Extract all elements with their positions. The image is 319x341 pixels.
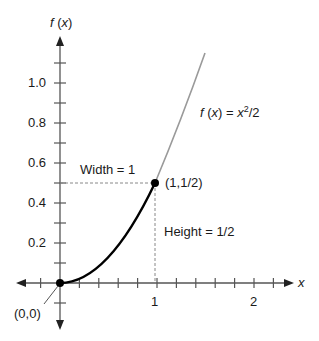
width-annotation: Width = 1 [80, 162, 135, 177]
guide-lines [60, 183, 155, 283]
origin-point [56, 279, 64, 287]
y-axis-down-arrow-icon [56, 320, 64, 330]
origin-label: (0,0) [14, 306, 41, 321]
point-label: (1,1/2) [165, 175, 203, 190]
x-axis-left-arrow-icon [16, 279, 26, 287]
x-tick-label-1: 1 [151, 294, 158, 309]
chart: f (x) x 1.0 0.8 0.6 0.4 0.2 1 2 (0,0) (1… [0, 0, 319, 341]
curve-continuation [155, 53, 205, 183]
x-tick-label-2: 2 [250, 294, 257, 309]
x-axis-right-arrow-icon [284, 279, 294, 287]
height-annotation: Height = 1/2 [164, 224, 234, 239]
y-tick-label-0.2: 0.2 [28, 235, 46, 250]
y-tick-label-1.0: 1.0 [28, 75, 46, 90]
point-1-half [151, 179, 159, 187]
y-axis-label: f (x) [50, 15, 72, 30]
x-axis-label: x [297, 275, 305, 290]
y-tick-label-0.4: 0.4 [28, 195, 46, 210]
y-tick-label-0.8: 0.8 [28, 115, 46, 130]
origin-leader [44, 286, 58, 304]
y-tick-label-0.6: 0.6 [28, 155, 46, 170]
curve-main [60, 183, 155, 283]
function-label: f (x) = x2/2 [200, 104, 260, 120]
y-axis-up-arrow-icon [56, 36, 64, 46]
